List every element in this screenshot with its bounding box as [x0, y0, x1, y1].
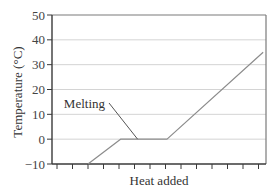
y-tick-label: 30: [32, 57, 45, 72]
heating-curve-chart: −1001020304050 Melting Temperature (°C) …: [0, 0, 280, 193]
y-tick-label: −10: [25, 157, 45, 172]
y-axis: −1001020304050: [25, 8, 52, 172]
melting-leader-line: [109, 103, 138, 139]
x-axis-title: Heat added: [130, 173, 189, 188]
x-axis: [52, 164, 266, 169]
melting-label: Melting: [64, 96, 106, 111]
gridlines: [52, 40, 266, 139]
y-tick-label: 50: [32, 8, 45, 23]
y-tick-label: 0: [39, 132, 46, 147]
y-axis-title: Temperature (°C): [10, 46, 25, 137]
data-series: [88, 52, 263, 164]
y-tick-label: 20: [32, 82, 45, 97]
heating-curve-line: [88, 52, 263, 164]
y-tick-label: 10: [32, 107, 45, 122]
annotations: Melting: [64, 96, 138, 139]
y-tick-label: 40: [32, 32, 45, 47]
